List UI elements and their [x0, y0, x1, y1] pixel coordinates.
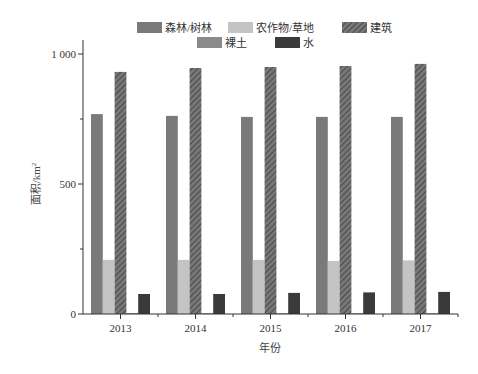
bar: 农作物/草地 2014: 208 [178, 260, 190, 314]
bar-chart: 森林/树林 2013: 769农作物/草地 2013: 208建筑 2013: … [0, 0, 478, 374]
legend-swatch [275, 37, 300, 48]
x-tick-label: 2013 [110, 322, 133, 334]
bar: 森林/树林 2013: 769 [91, 114, 103, 314]
legend-swatch [137, 22, 162, 33]
legend-label: 建筑 [370, 21, 392, 34]
bar: 水 2015: 81 [288, 293, 300, 314]
bars-layer: 森林/树林 2013: 769农作物/草地 2013: 208建筑 2013: … [91, 64, 450, 314]
legend-item: 裸土 [197, 36, 247, 49]
y-tick-label: 1 000 [51, 48, 76, 60]
y-tick-label: 0 [71, 308, 77, 320]
bar: 建筑 2016: 954 [340, 66, 352, 314]
bar: 建筑 2017: 962 [415, 64, 427, 314]
legend-swatch [228, 22, 253, 33]
bar: 森林/树林 2016: 758 [316, 117, 328, 314]
bar: 森林/树林 2017: 758 [391, 117, 403, 314]
legend-swatch [342, 22, 367, 33]
y-tick-label: 500 [60, 178, 77, 190]
legend-label: 农作物/草地 [256, 21, 314, 34]
bar: 农作物/草地 2017: 206 [403, 260, 415, 314]
legend-item: 水 [275, 37, 314, 49]
bar: 水 2017: 85 [438, 292, 450, 314]
y-axis-title: 面积/km2 [30, 162, 42, 205]
legend-label: 水 [303, 37, 314, 49]
legend: 森林/树林农作物/草地建筑裸土水 [137, 21, 392, 49]
x-tick-label: 2016 [335, 322, 358, 334]
bar: 农作物/草地 2016: 204 [328, 261, 340, 314]
x-tick-label: 2017 [410, 322, 433, 334]
bar: 水 2014: 77 [213, 294, 225, 314]
bar: 森林/树林 2014: 762 [166, 116, 178, 314]
x-tick-label: 2015 [260, 322, 283, 334]
x-tick-label: 2014 [185, 322, 208, 334]
bar: 农作物/草地 2013: 208 [103, 260, 115, 314]
bar: 建筑 2014: 946 [190, 68, 202, 314]
bar: 农作物/草地 2015: 208 [253, 260, 265, 314]
legend-item: 农作物/草地 [228, 21, 314, 34]
bar: 水 2013: 77 [138, 294, 150, 314]
bar: 建筑 2013: 931 [115, 72, 127, 314]
legend-item: 建筑 [342, 21, 392, 34]
legend-item: 森林/树林 [137, 21, 212, 34]
legend-label: 裸土 [225, 36, 247, 49]
bar: 建筑 2015: 950 [265, 67, 277, 314]
bar: 水 2016: 83 [363, 292, 375, 314]
legend-swatch [197, 37, 222, 48]
legend-label: 森林/树林 [165, 21, 212, 34]
x-axis-title: 年份 [259, 341, 281, 354]
bar: 森林/树林 2015: 758 [241, 117, 253, 314]
